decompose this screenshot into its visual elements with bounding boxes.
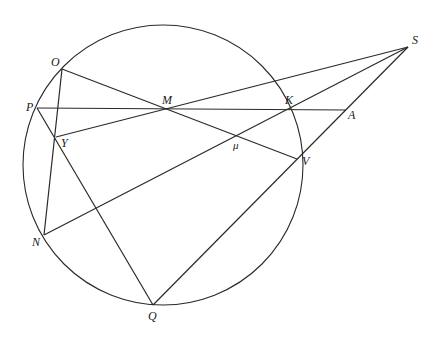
label-K: K: [285, 94, 293, 106]
label-S: S: [412, 34, 418, 46]
segment-OV: [62, 69, 297, 159]
geometry-diagram: O P M Y K A S μ V N Q: [0, 0, 442, 338]
segment-NS: [44, 47, 408, 235]
label-A: A: [348, 109, 355, 121]
segment-PQ: [37, 108, 153, 305]
segment-ON: [44, 69, 62, 235]
label-M: M: [162, 94, 172, 106]
label-mu: μ: [233, 140, 239, 151]
label-V: V: [302, 155, 309, 167]
segment-QS: [153, 47, 408, 305]
line-segments: [37, 47, 408, 305]
diagram-canvas: [0, 0, 442, 338]
circle: [23, 25, 303, 305]
label-Q: Q: [148, 310, 157, 322]
label-O: O: [51, 56, 60, 68]
segment-PA: [37, 108, 346, 110]
label-P: P: [26, 101, 33, 113]
label-Y: Y: [61, 137, 68, 149]
label-N: N: [32, 236, 40, 248]
segment-YS: [56, 47, 408, 137]
